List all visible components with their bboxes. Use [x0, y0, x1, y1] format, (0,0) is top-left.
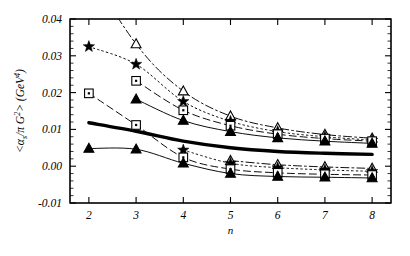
x-tick-label: 7: [322, 209, 329, 221]
marker-square-center: [182, 109, 184, 111]
x-tick-label: 6: [275, 209, 281, 221]
marker-filled-triangle: [178, 115, 188, 124]
y-tick-label: 0.04: [42, 13, 62, 25]
marker-square-center: [135, 124, 137, 126]
figure-container: -0.010.000.010.020.030.042345678n<αs/π G…: [0, 0, 410, 256]
marker-filled-triangle: [131, 94, 141, 103]
x-tick-label: 3: [132, 209, 139, 221]
y-axis-title: <αs/π G2> (GeV4): [13, 69, 29, 153]
y-tick-label: -0.01: [38, 197, 62, 209]
x-tick-label: 5: [228, 209, 234, 221]
marker-square-center: [135, 80, 137, 82]
series-line: [136, 81, 372, 141]
y-tick-label: 0.02: [42, 87, 62, 99]
x-tick-label: 2: [86, 209, 92, 221]
y-axis-title-text: <αs/π G2> (GeV4): [13, 69, 29, 153]
y-tick-label: 0.00: [42, 160, 62, 172]
series-layer: [75, 0, 378, 182]
chart-plot: -0.010.000.010.020.030.042345678n<αs/π G…: [0, 0, 410, 256]
y-tick-label: 0.03: [42, 50, 62, 62]
marker-filled-star: [130, 58, 141, 69]
x-tick-label: 4: [180, 209, 186, 221]
series-line: [231, 161, 373, 169]
marker-filled-triangle: [84, 143, 94, 152]
series-line: [136, 99, 372, 143]
marker-square-center: [88, 92, 90, 94]
x-axis-title: n: [228, 224, 234, 236]
series-lower-band-open-triangle: [226, 155, 377, 172]
y-tick-label: 0.01: [42, 123, 62, 135]
marker-open-triangle: [178, 86, 188, 95]
marker-filled-star: [178, 95, 189, 106]
x-tick-label: 8: [369, 209, 375, 221]
marker-filled-star: [83, 41, 94, 52]
series-line: [75, 0, 372, 138]
